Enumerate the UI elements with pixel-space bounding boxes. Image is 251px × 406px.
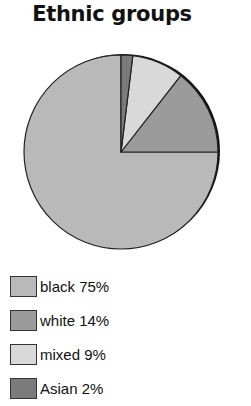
legend-item-white: white 14% xyxy=(10,309,109,331)
legend-swatch-white xyxy=(10,310,37,331)
legend-label: white 14% xyxy=(40,312,109,329)
legend-label: mixed 9% xyxy=(40,346,106,363)
legend: black 75% white 14% mixed 9% Asian 2% xyxy=(10,275,109,406)
legend-label: Asian 2% xyxy=(40,380,103,397)
legend-item-mixed: mixed 9% xyxy=(10,343,109,365)
legend-swatch-asian xyxy=(10,378,37,399)
legend-label: black 75% xyxy=(40,278,109,295)
legend-item-black: black 75% xyxy=(10,275,109,297)
pie-chart xyxy=(0,0,251,260)
legend-swatch-mixed xyxy=(10,344,37,365)
legend-item-asian: Asian 2% xyxy=(10,377,109,399)
legend-swatch-black xyxy=(10,276,37,297)
